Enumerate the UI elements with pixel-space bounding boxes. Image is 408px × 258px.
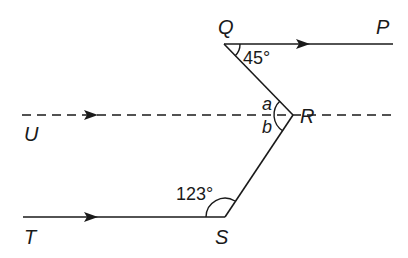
label-s: S [215,226,229,248]
label-u: U [24,123,39,145]
label-q: Q [218,16,234,38]
angle-arc-r [274,101,283,131]
label-p: P [376,16,390,38]
angle-s-value: 123° [176,184,213,204]
label-t: T [24,226,38,248]
label-r: R [300,105,314,127]
angle-q-value: 45° [243,48,270,68]
angle-arc-q [235,44,240,56]
angle-a-label: a [262,94,272,114]
geometry-diagram: Q P R U S T 45° a b 123° [0,0,408,258]
angle-b-label: b [262,117,272,137]
